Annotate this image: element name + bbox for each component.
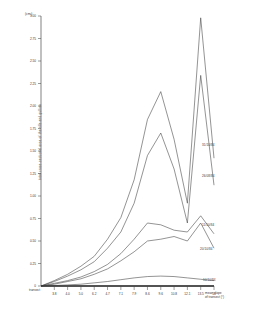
y-tick-marks — [38, 16, 41, 286]
series-line-31-10-84 — [41, 18, 214, 286]
x-tick-label: 6.2 — [87, 292, 101, 296]
x-tick-label: 14 — [207, 292, 221, 296]
series-line-10-10-84 — [41, 276, 214, 286]
series-label-31-10-84: 31/10/84 — [202, 143, 214, 147]
x-tick-label: 4.0 — [61, 292, 75, 296]
plot-svg — [0, 0, 253, 311]
y-tick-label: 2.50 — [22, 59, 36, 63]
series-line-26-08-84 — [41, 75, 214, 286]
y-tick-label: 1.75 — [22, 127, 36, 131]
x-tick-label: 7.1 — [114, 292, 128, 296]
x-tick-label: 9.6 — [154, 292, 168, 296]
y-tick-label: 1.50 — [22, 149, 36, 153]
x-tick-label: 5.0 — [74, 292, 88, 296]
x-tick-label: 10.8 — [167, 292, 181, 296]
x-tick-label: 3.8 — [47, 292, 61, 296]
x-tick-label: 7.9 — [127, 292, 141, 296]
series-label-26-08-84: 26/08/84 — [202, 174, 214, 178]
series-label-20-10-84: 20/10/84 — [200, 247, 212, 251]
y-tick-label: 0.25 — [22, 262, 36, 266]
y-tick-label: 2.00 — [22, 104, 36, 108]
y-tick-label: 2.25 — [22, 82, 36, 86]
series-line-11-10-84 — [41, 216, 214, 286]
y-tick-label: 1.00 — [22, 194, 36, 198]
y-tick-label: 2.75 — [22, 37, 36, 41]
series-label-10-10-84: 10/10/84 — [203, 278, 215, 282]
y-tick-label: 1.25 — [22, 172, 36, 176]
series-label-11-10-84: 11/10/84 — [202, 223, 214, 227]
x-tick-label: 13.5 — [194, 292, 208, 296]
y-tick-label: 0.75 — [22, 217, 36, 221]
axes-group — [41, 16, 214, 286]
x-tick-label: 4.7 — [101, 292, 115, 296]
x-tick-label: 8.6 — [140, 292, 154, 296]
chart-figure: (cm²) total cross-sectional area of the … — [0, 0, 253, 311]
y-tick-label: 3.00 — [22, 14, 36, 18]
y-tick-label: 0 — [22, 284, 36, 288]
series-curves — [41, 18, 214, 286]
y-tick-label: 0.50 — [22, 239, 36, 243]
x-tick-label: 12.1 — [180, 292, 194, 296]
